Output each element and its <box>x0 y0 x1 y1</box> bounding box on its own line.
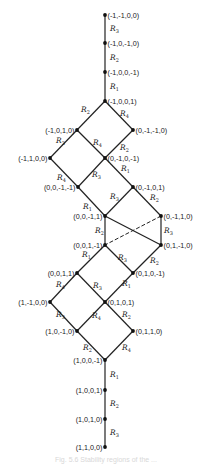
node-label: (0,1,-1,0) <box>164 241 193 250</box>
node-dot <box>103 388 107 392</box>
edge-label: R3 <box>55 136 65 146</box>
node-label: (-1,-1,0,0) <box>108 11 140 20</box>
node-label: (0,0,-1,-1) <box>44 183 76 192</box>
node-dot <box>159 243 163 247</box>
node-dot <box>75 128 79 132</box>
edge-label: R3 <box>163 226 173 236</box>
node-dot <box>103 99 107 103</box>
node-label: (0,-1,0,-1) <box>108 154 140 163</box>
edge-label: R4 <box>55 280 65 290</box>
node-dot <box>131 271 135 275</box>
node-dot <box>103 41 107 45</box>
edge-label: R2 <box>80 105 90 115</box>
edge-label: R2 <box>109 53 119 63</box>
node-label: (0,-1,-1,0) <box>136 126 168 135</box>
node-label: (1,0,1,0) <box>76 415 103 424</box>
node-label: (-1,0,0,1) <box>108 97 137 106</box>
edge-label: R3 <box>92 281 102 291</box>
node-label: (1,1,0,0) <box>76 443 103 452</box>
edge-label: R2 <box>119 143 129 153</box>
node-label: (0,1,0,1) <box>108 298 135 307</box>
edge-label: R3 <box>109 24 119 34</box>
edge-label: R3 <box>91 170 101 180</box>
edge-label-layer: R3R2R1R2R4R3R4R2R4R3R1R1R3R2R2R3R1R3R2R4… <box>55 24 173 438</box>
node-dot <box>131 329 135 333</box>
node-label: (1,0,0,-1) <box>73 356 102 365</box>
edge-label: R3 <box>109 428 119 438</box>
node-dot <box>103 243 107 247</box>
edge-label: R2 <box>109 399 119 409</box>
edge-label: R4 <box>56 173 66 183</box>
lattice-diagram: R3R2R1R2R4R3R4R2R4R3R1R1R3R2R2R3R1R3R2R4… <box>0 0 212 465</box>
node-dot <box>103 214 107 218</box>
edge-label: R1 <box>82 202 92 212</box>
edge-label: R3 <box>55 310 65 320</box>
node-label: (-1,0,-1,0) <box>108 39 140 48</box>
edge-label: R1 <box>120 164 130 174</box>
edge-label: R4 <box>92 138 102 148</box>
edge-label: R1 <box>121 279 131 289</box>
figure-caption: Fig. 5.6 Stability regions of the ... <box>0 456 212 463</box>
edge-label: R2 <box>149 193 159 203</box>
node-label: (1,0,-1,0) <box>45 327 74 336</box>
node-dot <box>48 156 52 160</box>
edge-label: R2 <box>94 226 104 236</box>
node-dot <box>159 214 163 218</box>
node-dot <box>103 417 107 421</box>
node-label: (-1,0,1,0) <box>45 126 74 135</box>
node-label: (0,0,1,-1) <box>73 241 102 250</box>
node-label: (0,1,0,-1) <box>136 269 165 278</box>
edge-layer <box>50 15 161 447</box>
node-label: (1,0,0,1) <box>76 386 103 395</box>
node-dot <box>103 300 107 304</box>
node-dot <box>131 185 135 189</box>
node-dot <box>48 300 52 304</box>
node-label: (0,1,1,0) <box>136 327 163 336</box>
node-dot <box>103 156 107 160</box>
node-dot <box>131 128 135 132</box>
node-label: (0,0,1,1) <box>48 269 75 278</box>
edge-label: R1 <box>109 370 119 380</box>
node-dot <box>103 358 107 362</box>
node-dot <box>75 329 79 333</box>
edge-label: R4 <box>119 109 129 119</box>
edge-n20-n21 <box>105 331 133 360</box>
node-label: (1,-1,0,0) <box>18 298 47 307</box>
edge-label: R2 <box>149 256 159 266</box>
node-dot <box>103 445 107 449</box>
edge-label: R2 <box>121 310 131 320</box>
edge-label: R4 <box>91 311 101 321</box>
node-dot <box>76 185 80 189</box>
edge-label: R3 <box>117 253 127 263</box>
edge-label: R1 <box>109 82 119 92</box>
node-dot <box>103 13 107 17</box>
edge-label: R4 <box>121 343 131 353</box>
node-label: (0,-1,1,0) <box>164 212 193 221</box>
node-label: (-1,1,0,0) <box>18 154 47 163</box>
edge-label: R1 <box>81 250 91 260</box>
node-dot <box>75 271 79 275</box>
node-label: (0,-1,0,1) <box>136 183 165 192</box>
edge-label: R3 <box>109 192 119 202</box>
node-label: (-1,0,0,-1) <box>108 68 140 77</box>
node-dot <box>103 70 107 74</box>
node-label: (0,0,-1,1) <box>73 212 102 221</box>
